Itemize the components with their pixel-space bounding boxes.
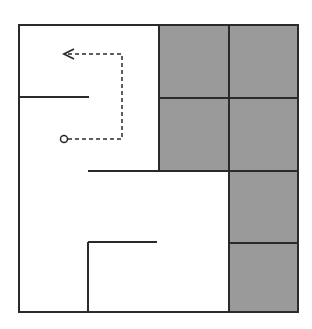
blocked-cell (159, 98, 229, 171)
maze-diagram (0, 0, 312, 329)
route-path (61, 49, 123, 143)
start-circle-icon (61, 136, 68, 143)
blocked-cell (229, 25, 298, 98)
blocked-cell (229, 243, 298, 312)
blocked-cell (229, 98, 298, 171)
blocked-cells (159, 25, 298, 312)
blocked-cell (159, 25, 229, 98)
blocked-cell (229, 171, 298, 243)
